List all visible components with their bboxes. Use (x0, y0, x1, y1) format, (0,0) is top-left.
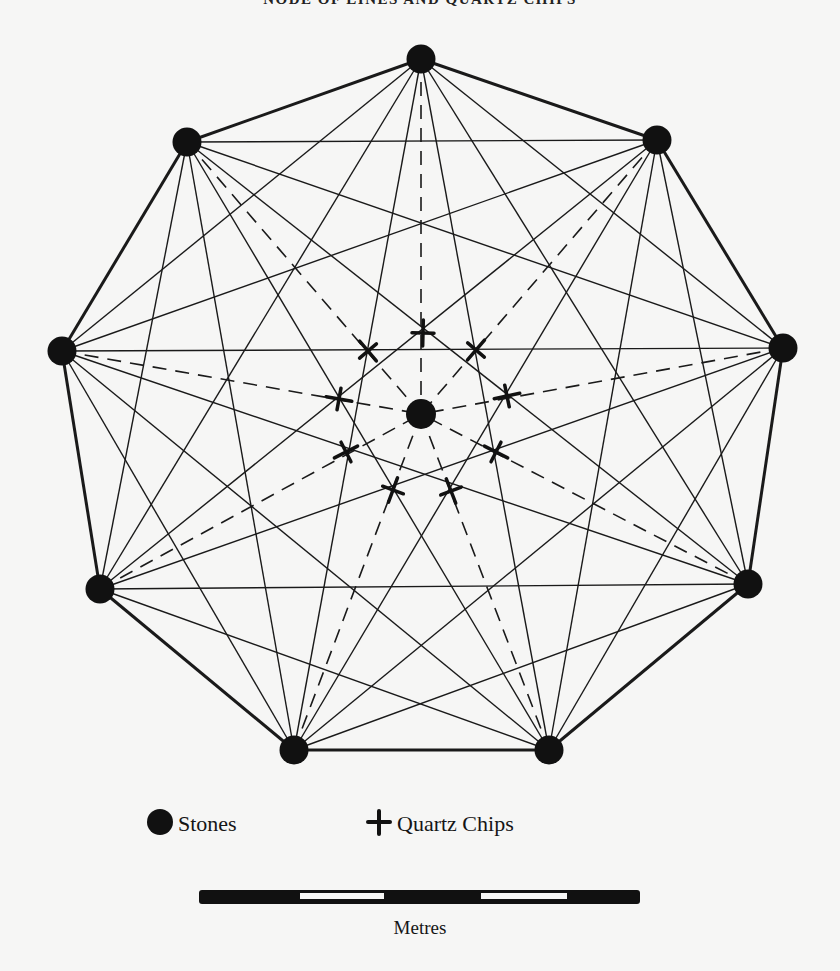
dashed-radial-line (421, 140, 657, 414)
dashed-radial-line (62, 351, 421, 414)
stone-lower-right (734, 570, 763, 599)
sight-line (187, 142, 783, 348)
perimeter-line (657, 140, 783, 348)
legend-quartz-label: Quartz Chips (397, 811, 514, 837)
stone-upper-right (643, 126, 672, 155)
dashed-radial-line (294, 414, 421, 750)
perimeter-line (748, 348, 783, 584)
perimeter-line (187, 59, 421, 142)
stone-top (407, 45, 436, 74)
scale-label: Metres (0, 917, 840, 939)
stone-left (48, 337, 77, 366)
sight-line (421, 59, 783, 348)
sight-line (62, 140, 657, 351)
perimeter-line (421, 59, 657, 140)
scale-bar-white-segment (481, 893, 567, 899)
stone-legend-icon (147, 809, 173, 835)
scale-bar (199, 890, 640, 904)
sight-line (100, 589, 549, 750)
sight-line (294, 584, 748, 750)
stone-bottom-left (280, 736, 309, 765)
perimeter-line (549, 584, 748, 750)
quartz-legend-icon (368, 811, 390, 834)
dashed-radial-line (421, 348, 783, 414)
quartz-chip-marker (324, 386, 354, 412)
stones-group (48, 45, 798, 765)
legend-stones-label: Stones (178, 811, 237, 837)
perimeter-line (62, 142, 187, 351)
stone-center (406, 399, 436, 429)
scale-bar-body (199, 890, 640, 904)
stone-bottom-right (535, 736, 564, 765)
sight-line (100, 140, 657, 589)
stone-lower-left (86, 575, 115, 604)
sight-line (187, 142, 748, 584)
sight-line (62, 351, 748, 584)
perimeter-line (100, 589, 294, 750)
dashed-radial-line (421, 414, 549, 750)
scale-bar-white-segment (300, 893, 384, 899)
stone-right (769, 334, 798, 363)
sight-line (187, 140, 657, 142)
dashed-radial-line (421, 414, 748, 584)
quartz-chip-marker (412, 320, 435, 347)
stone-upper-left (173, 128, 202, 157)
sight-line (62, 348, 783, 351)
perimeter-line (62, 351, 100, 589)
